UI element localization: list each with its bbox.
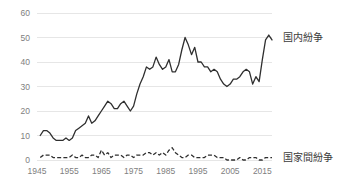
series-legend-label-0: 国内紛争	[283, 31, 323, 43]
series-legend-label-1: 国家間紛争	[283, 151, 333, 163]
x-tick-label: 1965	[92, 166, 111, 176]
y-axis-tick-labels: 0102030405060	[21, 8, 31, 165]
y-tick-label: 40	[21, 57, 31, 67]
x-axis-tick-labels: 19451955196519751985199520052015	[28, 166, 273, 176]
series-lines	[40, 35, 272, 160]
y-tick-label: 0	[25, 155, 30, 165]
series-line-1	[40, 148, 272, 160]
x-tick-label: 1955	[60, 166, 79, 176]
x-tick-label: 1945	[28, 166, 47, 176]
chart-canvas: 0102030405060 19451955196519751985199520…	[0, 0, 357, 188]
x-tick-label: 2015	[253, 166, 272, 176]
x-tick-label: 2005	[221, 166, 240, 176]
y-tick-label: 10	[21, 131, 31, 141]
y-tick-label: 30	[21, 82, 31, 92]
conflict-trend-chart: 0102030405060 19451955196519751985199520…	[0, 0, 357, 188]
series-line-0	[40, 35, 272, 140]
x-tick-label: 1985	[156, 166, 175, 176]
x-tick-label: 1975	[124, 166, 143, 176]
x-tick-label: 1995	[188, 166, 207, 176]
series-legend-labels: 国内紛争国家間紛争	[283, 31, 333, 163]
y-tick-label: 20	[21, 106, 31, 116]
y-tick-label: 50	[21, 33, 31, 43]
y-tick-label: 60	[21, 8, 31, 18]
